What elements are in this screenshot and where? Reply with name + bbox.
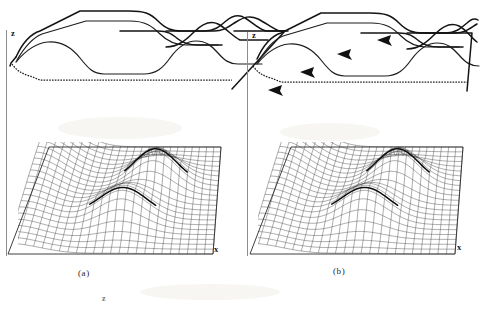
mesh-column [446,147,455,254]
mesh-column [378,147,398,254]
mesh-column [51,134,85,250]
panel-b-profile [253,13,479,96]
panel-b-curve-right-plateau [407,19,478,33]
mesh-column [204,147,213,254]
panel-a-profile [10,11,288,89]
arrow-head-1 [377,35,392,46]
mesh-row [12,231,214,244]
panel-b: z [248,13,480,276]
mesh-row [269,182,459,205]
mesh-crest-line-2 [90,187,156,205]
panel-b-curve-top [257,13,477,59]
panel-b-caption: (b) [333,266,345,276]
arrow-head-4 [268,85,283,96]
figure-root: z [0,0,481,309]
mesh-column [293,134,327,250]
mesh-row [42,135,220,166]
panel-b-curve-third [257,43,479,76]
arrow-head-2 [337,49,352,60]
panel-a-x-axis-label: x [214,244,219,254]
mesh-row [27,182,217,205]
panel-a-curve-third [16,41,262,74]
panel-a-baseline-dotted [12,64,232,80]
panel-b-x-axis-label: x [457,242,462,252]
mesh-row [23,185,216,215]
panel-a-caption: (a) [78,268,90,278]
arrow-head-3 [300,67,315,78]
panel-b-z-axis-label: z [252,30,256,40]
figure-canvas: z [0,0,481,309]
mesh-column [59,138,92,251]
mesh-row [265,185,458,215]
panel-a-z-axis-label: z [11,28,15,38]
mesh-column [136,147,156,254]
mesh-column [301,138,334,251]
mesh-row [254,231,456,244]
mesh-column [102,147,128,254]
panel-a: z [7,11,289,278]
stray-z-glyph: z [102,294,106,303]
panel-b-baseline-dotted [253,66,467,82]
mesh-column [344,147,370,254]
mesh-crest-line-2 [332,187,398,205]
